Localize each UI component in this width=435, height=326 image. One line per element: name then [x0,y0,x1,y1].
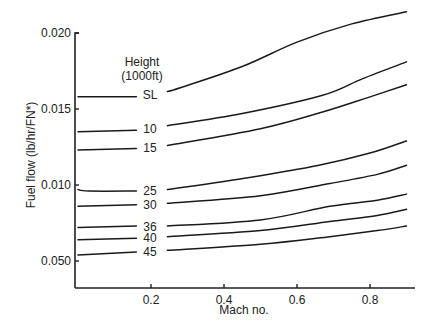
series-line-36-right [167,194,406,226]
series-line-45-left [78,252,136,255]
series-line-15-right [167,85,406,146]
y-tick-label: 0.020 [41,26,71,40]
series-label-10: 10 [143,122,157,136]
series-group [78,12,407,255]
series-label-sl: SL [143,88,158,102]
series-line-30-left [78,205,136,207]
series-line-15-left [78,149,136,151]
legend-title-line-2: (1000ft) [121,69,162,83]
series-line-25-right [167,141,406,190]
y-axis-line [75,33,79,288]
series-line-40-right [167,209,406,236]
series-line-45-right [167,226,406,250]
axes: 0.0200.0150.0100.0500.20.40.60.8 [41,26,415,307]
x-axis-title: Mach no. [219,303,268,317]
series-line-40-left [78,238,136,240]
y-tick-label: 0.015 [41,102,71,116]
series-label-25: 25 [143,184,157,198]
series-line-sl-right [167,12,406,92]
y-tick-label: 0.010 [41,178,71,192]
series-label-40: 40 [143,231,157,245]
series-line-10-left [78,130,136,132]
x-tick-label: 0.6 [289,293,306,307]
series-label-15: 15 [143,141,157,155]
labels-group: SL10152530364045 [143,88,158,259]
series-line-36-left [78,226,136,228]
y-axis-title: Fuel flow (lb/hr/FN*) [24,102,38,209]
x-tick-label: 0.8 [362,293,379,307]
series-label-45: 45 [143,245,157,259]
fuel-flow-chart: 0.0200.0150.0100.0500.20.40.60.8 SL10152… [0,0,435,326]
series-line-10-right [167,62,406,126]
series-line-25-left [78,190,136,192]
legend-title-line-1: Height [125,55,160,69]
y-tick-label: 0.050 [41,254,71,268]
x-tick-label: 0.2 [143,293,160,307]
series-label-30: 30 [143,198,157,212]
